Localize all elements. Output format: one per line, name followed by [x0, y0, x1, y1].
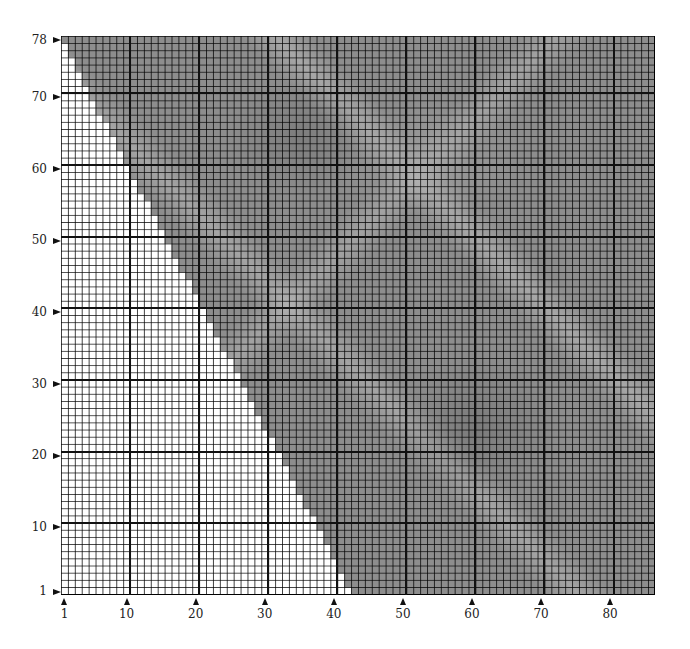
row-label: 78	[32, 34, 61, 46]
column-pointer-icon	[469, 598, 475, 605]
column-number: 1	[61, 607, 69, 621]
row-number: 50	[32, 233, 47, 247]
row-label: 60	[32, 163, 61, 175]
column-pointer-icon	[400, 598, 406, 605]
row-label: 70	[32, 91, 61, 103]
column-pointer-icon	[538, 598, 544, 605]
row-number: 70	[32, 90, 47, 104]
column-label: 40	[319, 598, 349, 621]
row-label: 20	[32, 449, 61, 461]
column-number: 80	[602, 607, 617, 621]
column-label: 20	[181, 598, 211, 621]
column-pointer-icon	[124, 598, 130, 605]
row-number: 60	[32, 162, 47, 176]
column-number: 60	[464, 607, 479, 621]
column-pointer-icon	[607, 598, 613, 605]
row-label: 10	[32, 521, 61, 533]
row-pointer-icon	[53, 453, 61, 459]
row-number: 40	[32, 305, 47, 319]
row-pointer-icon	[53, 166, 61, 172]
column-label: 70	[526, 598, 556, 621]
column-label: 30	[250, 598, 280, 621]
row-label: 40	[32, 306, 61, 318]
column-label: 50	[388, 598, 418, 621]
column-label: 80	[595, 598, 625, 621]
row-label: 30	[32, 378, 61, 390]
row-pointer-icon	[53, 238, 61, 244]
row-number: 78	[32, 33, 47, 47]
row-pointer-icon	[53, 381, 61, 387]
row-pointer-icon	[53, 94, 61, 100]
column-label: 1	[49, 598, 79, 621]
column-number: 10	[119, 607, 134, 621]
row-number: 20	[32, 448, 47, 462]
row-pointer-icon	[53, 37, 61, 43]
column-pointer-icon	[331, 598, 337, 605]
column-pointer-icon	[61, 598, 67, 605]
column-label: 60	[457, 598, 487, 621]
row-number: 30	[32, 377, 47, 391]
grid-lines	[61, 36, 655, 595]
column-number: 50	[395, 607, 410, 621]
row-pointer-icon	[53, 309, 61, 315]
column-label: 10	[112, 598, 142, 621]
row-pointer-icon	[53, 589, 61, 595]
column-number: 40	[326, 607, 341, 621]
column-number: 70	[533, 607, 548, 621]
row-number: 10	[32, 520, 47, 534]
row-pointer-icon	[53, 524, 61, 530]
row-label: 50	[32, 234, 61, 246]
column-number: 20	[188, 607, 203, 621]
row-label: 1	[39, 585, 61, 597]
row-number: 1	[39, 584, 47, 598]
stitch-chart-grid	[61, 36, 655, 595]
column-pointer-icon	[193, 598, 199, 605]
column-number: 30	[257, 607, 272, 621]
column-pointer-icon	[262, 598, 268, 605]
